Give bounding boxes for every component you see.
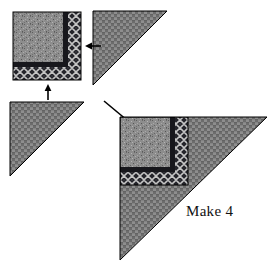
assembled-speckled-center <box>120 117 170 167</box>
corner-square-source <box>13 12 81 80</box>
quilt-assembly-diagram <box>0 0 280 270</box>
make-quantity-label: Make 4 <box>186 203 233 220</box>
assembled-corner-square <box>120 117 188 185</box>
speckled-center-patch <box>13 12 63 62</box>
